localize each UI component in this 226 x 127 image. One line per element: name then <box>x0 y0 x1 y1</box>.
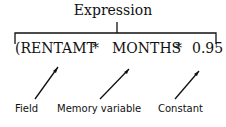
token-field: (RENTAMT <box>15 40 96 56</box>
token-constant: 0.95 <box>192 40 223 56</box>
token-operator: * <box>175 40 182 56</box>
token-memvar: MONTHS <box>112 40 181 56</box>
memvar-pointer <box>100 69 129 99</box>
constant-pointer <box>175 71 199 99</box>
label-field: Field <box>15 103 38 114</box>
token-operator: * <box>92 40 99 56</box>
label-memory-variable: Memory variable <box>57 103 141 114</box>
label-constant: Constant <box>158 103 203 114</box>
